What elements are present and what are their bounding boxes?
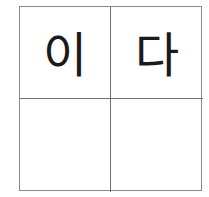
character-grid: 이 다 xyxy=(19,6,202,191)
grid-cell-4 xyxy=(111,99,203,192)
grid-cell-2: 다 xyxy=(111,7,203,99)
grid-cell-3 xyxy=(20,99,111,192)
grid-cell-1: 이 xyxy=(20,7,111,99)
cell-character: 다 xyxy=(135,27,179,79)
cell-character: 이 xyxy=(43,27,87,79)
